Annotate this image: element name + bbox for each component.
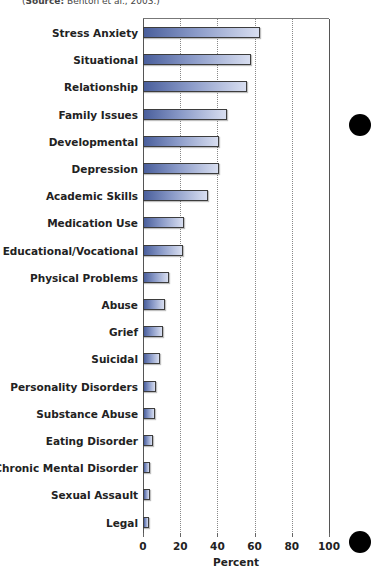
bar [143, 517, 149, 528]
bar-row: Stress Anxiety [0, 26, 329, 40]
x-tick-mark [292, 533, 293, 537]
bar [143, 163, 219, 174]
bar-row: Grief [0, 325, 329, 339]
bar-row: Chronic Mental Disorder [0, 461, 329, 475]
bar [143, 462, 150, 473]
category-label: Educational/Vocational [3, 244, 138, 258]
x-tick-label: 40 [210, 540, 225, 552]
bar [143, 381, 156, 392]
category-label: Developmental [49, 135, 138, 149]
bar [143, 353, 160, 364]
x-tick-mark [180, 533, 181, 537]
bar [143, 245, 183, 256]
page-marker-dot [349, 114, 371, 136]
x-axis-label: Percent [213, 556, 259, 568]
bar-row: Depression [0, 162, 329, 176]
category-label: Depression [72, 162, 138, 176]
bar-row: Academic Skills [0, 189, 329, 203]
x-tick-label: 20 [173, 540, 188, 552]
x-tick-label: 0 [139, 540, 146, 552]
bar-row: Suicidal [0, 352, 329, 366]
bar [143, 299, 165, 310]
bar [143, 109, 227, 120]
bar-row: Family Issues [0, 108, 329, 122]
x-tick-mark [255, 533, 256, 537]
category-label: Family Issues [58, 108, 138, 122]
bar-row: Physical Problems [0, 271, 329, 285]
x-tick-mark [217, 533, 218, 537]
category-label: Eating Disorder [46, 434, 138, 448]
category-label: Sexual Assault [51, 488, 138, 502]
category-label: Personality Disorders [10, 380, 138, 394]
category-label: Grief [109, 325, 138, 339]
bar [143, 217, 184, 228]
category-label: Relationship [64, 80, 138, 94]
source-label: Source: [26, 0, 65, 6]
bar-row: Medication Use [0, 216, 329, 230]
category-label: Medication Use [47, 216, 138, 230]
category-label: Chronic Mental Disorder [0, 461, 138, 475]
category-label: Abuse [102, 298, 139, 312]
page-marker-dot [349, 531, 371, 553]
x-tick-label: 100 [318, 540, 340, 552]
x-tick-label: 60 [247, 540, 262, 552]
bar-row: Substance Abuse [0, 407, 329, 421]
bar [143, 272, 169, 283]
source-text: Benton et al., 2003. [67, 0, 156, 6]
bar-row: Eating Disorder [0, 434, 329, 448]
category-label: Suicidal [91, 352, 138, 366]
bar-row: Situational [0, 53, 329, 67]
category-label: Legal [106, 516, 138, 530]
bar [143, 190, 208, 201]
x-tick-mark [329, 533, 330, 537]
bar [143, 81, 247, 92]
bar [143, 408, 155, 419]
bar [143, 136, 219, 147]
category-label: Physical Problems [30, 271, 138, 285]
right-border-line [329, 19, 330, 534]
bar-row: Educational/Vocational [0, 244, 329, 258]
bar [143, 435, 153, 446]
category-label: Stress Anxiety [52, 26, 138, 40]
bar-row: Personality Disorders [0, 380, 329, 394]
bar-row: Sexual Assault [0, 488, 329, 502]
x-tick-mark [143, 533, 144, 537]
x-tick-label: 80 [284, 540, 299, 552]
category-label: Academic Skills [46, 189, 138, 203]
category-label: Substance Abuse [36, 407, 138, 421]
bar [143, 326, 163, 337]
plot-area: Stress AnxietySituationalRelationshipFam… [143, 18, 329, 534]
category-label: Situational [73, 53, 138, 67]
bar-row: Abuse [0, 298, 329, 312]
source-caption: (Source: Benton et al., 2003.) [22, 0, 160, 6]
bar-row: Relationship [0, 80, 329, 94]
bar [143, 54, 251, 65]
bar-row: Legal [0, 516, 329, 530]
bar-row: Developmental [0, 135, 329, 149]
bar [143, 489, 150, 500]
bar [143, 27, 260, 38]
